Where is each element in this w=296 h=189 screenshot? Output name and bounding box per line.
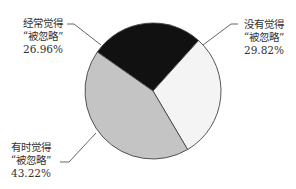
label-line2: “被忽略” <box>11 154 52 167</box>
pie-slices <box>85 23 221 159</box>
leader-line <box>203 24 238 45</box>
slice-label-often-ignored: 经常觉得 “被忽略” 26.96% <box>23 17 64 56</box>
label-value: 43.22% <box>11 167 52 180</box>
leader-line <box>60 133 96 162</box>
label-line1: 没有觉得 <box>244 18 285 31</box>
label-line2: “被忽略” <box>244 31 285 44</box>
label-value: 26.96% <box>23 43 64 56</box>
leader-line <box>67 24 101 45</box>
slice-label-sometimes-ignored: 有时觉得 “被忽略” 43.22% <box>11 141 52 180</box>
label-line1: 有时觉得 <box>11 141 52 154</box>
slice-label-never-ignored: 没有觉得 “被忽略” 29.82% <box>244 18 285 57</box>
label-value: 29.82% <box>244 44 285 57</box>
label-line2: “被忽略” <box>23 30 64 43</box>
label-line1: 经常觉得 <box>23 17 64 30</box>
